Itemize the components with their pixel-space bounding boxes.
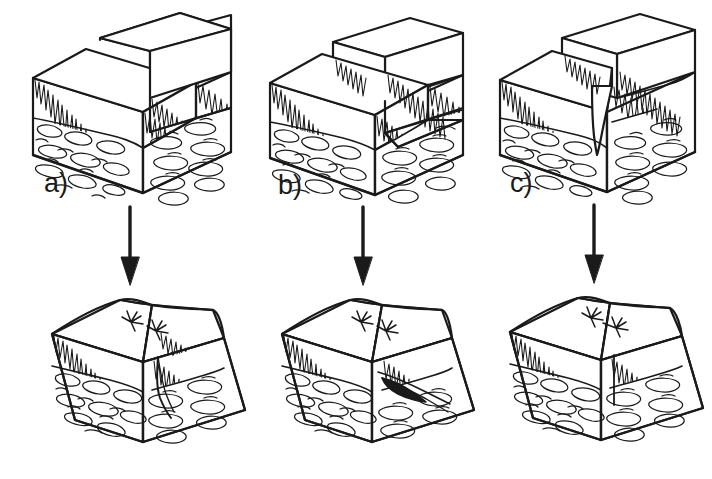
- geological-block-diagram-figure: a): [0, 0, 712, 479]
- panel-label-c: c): [510, 168, 533, 198]
- panel-label-a: a): [44, 168, 68, 198]
- panel-label-b: b): [278, 170, 302, 200]
